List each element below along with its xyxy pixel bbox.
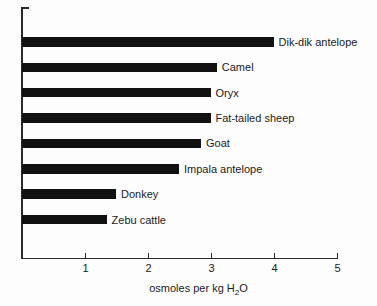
bar (22, 215, 107, 225)
bar-label: Impala antelope (184, 164, 262, 175)
x-axis-line (21, 258, 338, 260)
bar (22, 88, 211, 98)
bar-label: Camel (222, 62, 254, 73)
x-tick-label: 4 (271, 263, 277, 274)
y-axis-top-tick (21, 7, 29, 9)
bar (22, 139, 202, 149)
x-axis-title: osmoles per kg H2O (0, 282, 377, 299)
bar (22, 189, 117, 199)
bar-label: Goat (206, 138, 230, 149)
bar (22, 164, 180, 174)
bar (22, 63, 217, 73)
x-tick-label: 1 (82, 263, 88, 274)
bar (22, 113, 211, 123)
x-tick (148, 253, 150, 258)
x-tick (274, 253, 276, 258)
bar-label: Dik-dik antelope (279, 37, 358, 48)
x-tick (85, 253, 87, 258)
bar-label: Zebu cattle (112, 215, 166, 226)
x-tick-label: 3 (208, 263, 214, 274)
x-tick-label: 5 (334, 263, 340, 274)
bar-label: Donkey (121, 189, 158, 200)
bar (22, 37, 274, 47)
bar-label: Oryx (216, 88, 239, 99)
x-tick (211, 253, 213, 258)
x-axis-title-text: osmoles per kg H2O (149, 282, 248, 294)
bar-label: Fat-tailed sheep (216, 113, 295, 124)
x-tick (337, 253, 339, 258)
bar-chart: Dik-dik antelopeCamelOryxFat-tailed shee… (0, 0, 377, 306)
x-tick-label: 2 (145, 263, 151, 274)
